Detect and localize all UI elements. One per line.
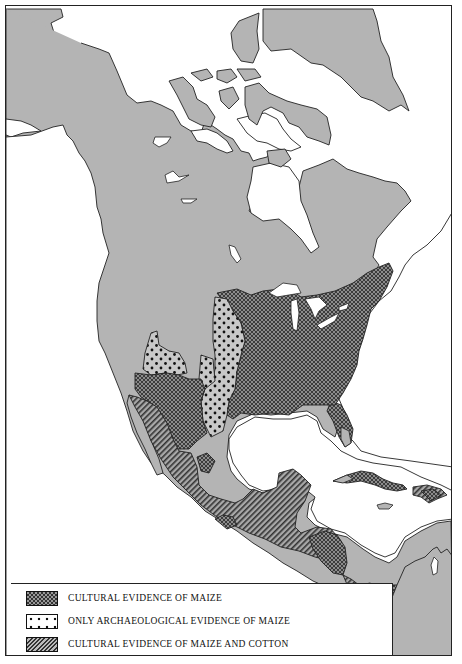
greenland-landmass — [263, 9, 409, 111]
north-america-map — [6, 6, 452, 656]
legend-label: ONLY ARCHAEOLOGICAL EVIDENCE OF MAIZE — [68, 616, 290, 626]
stripes-swatch-icon — [26, 637, 58, 652]
crosshatch-swatch-icon — [26, 591, 58, 606]
dots-swatch-icon — [26, 614, 58, 629]
legend-label: CULTURAL EVIDENCE OF MAIZE AND COTTON — [68, 639, 289, 649]
legend-item-archaeological-maize: ONLY ARCHAEOLOGICAL EVIDENCE OF MAIZE — [26, 612, 290, 630]
map-legend: CULTURAL EVIDENCE OF MAIZE ONLY ARCHAEOL… — [11, 583, 393, 656]
legend-label: CULTURAL EVIDENCE OF MAIZE — [68, 593, 222, 603]
legend-item-cultural-maize: CULTURAL EVIDENCE OF MAIZE — [26, 589, 222, 607]
legend-item-maize-cotton: CULTURAL EVIDENCE OF MAIZE AND COTTON — [26, 635, 289, 653]
map-frame: CULTURAL EVIDENCE OF MAIZE ONLY ARCHAEOL… — [5, 5, 452, 656]
